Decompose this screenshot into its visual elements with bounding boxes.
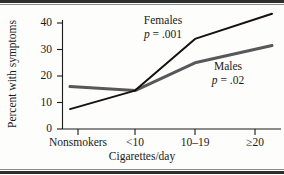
x-tick-label-lt10: <10 bbox=[105, 137, 165, 149]
p-number-males: .02 bbox=[230, 74, 244, 86]
y-tick-label-0: 0 bbox=[30, 123, 52, 135]
y-tick-label-40: 40 bbox=[30, 17, 52, 29]
series-annotation-females-name: Females bbox=[122, 14, 204, 28]
x-tick-label-gte20: ≥20 bbox=[225, 137, 284, 149]
p-equals-females: = bbox=[150, 28, 162, 40]
series-annotation-males: Males p = .02 bbox=[192, 60, 264, 87]
y-tick-label-10: 10 bbox=[30, 97, 52, 109]
y-axis-title: Percent with symptoms bbox=[6, 15, 18, 133]
figure-container: 0 10 20 30 40 Percent with symptoms Nons… bbox=[0, 0, 284, 175]
y-tick-label-30: 30 bbox=[30, 44, 52, 56]
series-annotation-females: Females p = .001 bbox=[122, 14, 204, 41]
y-tick-label-20: 20 bbox=[30, 70, 52, 82]
p-equals-males: = bbox=[218, 74, 230, 86]
series-annotation-males-name: Males bbox=[192, 60, 264, 74]
x-axis-ticks bbox=[78, 129, 255, 135]
x-tick-label-10-19: 10–19 bbox=[163, 137, 227, 149]
p-number-females: .001 bbox=[162, 28, 182, 40]
x-axis-title: Cigarettes/day bbox=[0, 150, 284, 162]
series-annotation-females-pvalue: p = .001 bbox=[122, 28, 204, 42]
y-axis-ticks bbox=[57, 23, 63, 129]
series-annotation-males-pvalue: p = .02 bbox=[192, 74, 264, 88]
